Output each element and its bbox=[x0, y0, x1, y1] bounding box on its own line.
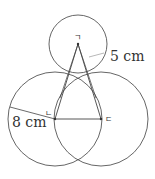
point-right-dot bbox=[100, 118, 102, 120]
point-top-label: ㄱ bbox=[74, 33, 81, 42]
top-radius-pointer bbox=[89, 53, 104, 57]
tangent-line-left bbox=[60, 44, 78, 98]
point-left-dot bbox=[54, 118, 56, 120]
top-radius-label: 5 cm bbox=[110, 48, 144, 64]
geometry-diagram: ㄱ ㄴ ㄷ 5 cm 8 cm bbox=[0, 0, 155, 179]
point-top-dot bbox=[77, 43, 79, 45]
point-right-label: ㄷ bbox=[105, 115, 112, 124]
left-radius-label: 8 cm bbox=[12, 114, 46, 130]
tangent-line-right bbox=[78, 44, 96, 98]
